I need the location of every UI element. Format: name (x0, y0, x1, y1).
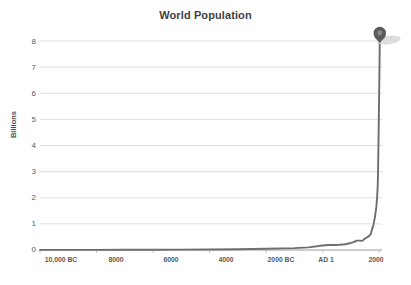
plot-area (0, 0, 411, 285)
map-pin-center-dot (377, 31, 382, 36)
chart-container: World Population Billions 8 7 6 5 4 3 2 … (0, 0, 411, 285)
gridlines (40, 41, 382, 253)
endpoint-marker[interactable] (374, 27, 402, 46)
